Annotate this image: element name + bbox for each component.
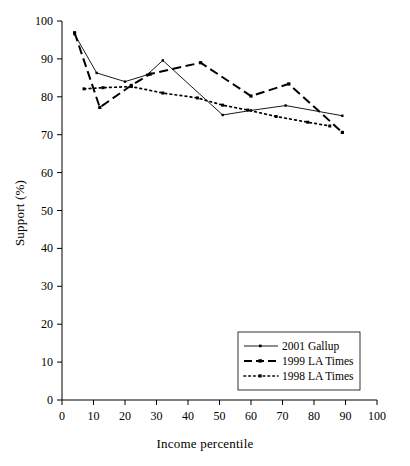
x-tick-label: 0 xyxy=(59,409,65,423)
chart-figure: 0102030405060708090100 01020304050607080… xyxy=(0,0,410,466)
data-point-marker xyxy=(275,115,278,118)
legend-marker-dot-icon xyxy=(259,345,262,348)
data-point-marker xyxy=(284,104,286,106)
data-point-marker xyxy=(341,115,343,117)
data-point-marker xyxy=(246,109,249,112)
data-point-marker xyxy=(196,96,199,99)
series-line xyxy=(75,34,343,115)
y-tick-label: 0 xyxy=(47,393,53,407)
x-tick-label: 100 xyxy=(368,409,386,423)
series-1 xyxy=(73,33,343,117)
y-axis-ticks: 0102030405060708090100 xyxy=(35,14,62,407)
x-tick-label: 70 xyxy=(277,409,289,423)
data-point-marker xyxy=(98,106,101,109)
y-tick-label: 100 xyxy=(35,14,53,28)
data-point-marker xyxy=(101,86,104,89)
legend-marker-dot-icon xyxy=(259,359,262,362)
x-tick-label: 50 xyxy=(214,409,226,423)
x-tick-label: 10 xyxy=(88,409,100,423)
data-point-marker xyxy=(149,72,152,75)
y-axis-title: Support (%) xyxy=(12,133,28,293)
chart-legend: 2001 Gallup 1999 LA Times 1998 LA Times xyxy=(238,332,360,390)
series-line xyxy=(84,87,330,126)
y-tick-label: 70 xyxy=(41,128,53,142)
data-point-marker xyxy=(83,87,86,90)
series-2 xyxy=(73,31,344,134)
data-point-marker xyxy=(162,59,164,61)
y-tick-label: 20 xyxy=(41,317,53,331)
legend-marker-dot-icon xyxy=(259,374,262,377)
legend-label-2001-gallup: 2001 Gallup xyxy=(282,340,339,353)
series-3 xyxy=(83,85,332,127)
data-point-marker xyxy=(287,82,290,85)
x-tick-label: 90 xyxy=(340,409,352,423)
data-point-marker xyxy=(328,124,331,127)
y-tick-label: 30 xyxy=(41,279,53,293)
x-axis-title: Income percentile xyxy=(0,436,410,452)
x-tick-label: 80 xyxy=(308,409,320,423)
x-tick-label: 60 xyxy=(245,409,257,423)
data-series-layer xyxy=(73,31,344,134)
data-point-marker xyxy=(199,61,202,64)
y-tick-label: 80 xyxy=(41,90,53,104)
y-tick-label: 50 xyxy=(41,204,53,218)
series-line xyxy=(75,33,343,133)
data-point-marker xyxy=(306,121,309,124)
data-point-marker xyxy=(124,80,126,82)
data-point-marker xyxy=(341,131,344,134)
y-tick-label: 60 xyxy=(41,166,53,180)
x-tick-label: 30 xyxy=(151,409,163,423)
y-tick-label: 90 xyxy=(41,52,53,66)
legend-label-1999-la-times: 1999 LA Times xyxy=(282,355,354,367)
x-axis-ticks: 0102030405060708090100 xyxy=(59,400,386,423)
legend-label-1998-la-times: 1998 LA Times xyxy=(282,370,354,382)
y-tick-label: 10 xyxy=(41,355,53,369)
data-point-marker xyxy=(249,94,252,97)
data-point-marker xyxy=(130,85,133,88)
data-point-marker xyxy=(221,114,223,116)
data-point-marker xyxy=(161,92,164,95)
data-point-marker xyxy=(95,72,97,74)
line-chart-canvas: 0102030405060708090100 01020304050607080… xyxy=(0,0,410,466)
data-point-marker xyxy=(221,104,224,107)
x-tick-label: 20 xyxy=(119,409,131,423)
data-point-marker xyxy=(73,31,76,34)
y-tick-label: 40 xyxy=(41,241,53,255)
x-tick-label: 40 xyxy=(182,409,194,423)
